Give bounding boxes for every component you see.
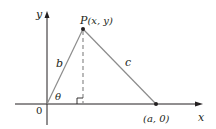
point-a [154,102,158,106]
point-a-label: (a, 0) [143,113,170,124]
x-axis-arrow-icon [195,102,203,107]
x-axis-label: x [198,111,205,124]
side-b-label: b [56,57,63,70]
origin-label: 0 [36,105,42,116]
x-axis [15,102,203,107]
y-axis [45,11,50,125]
y-axis-arrow-icon [45,11,50,18]
triangle-diagram: y x 0 P(x, y) (a, 0) b c θ [0,0,216,129]
point-p-label: P(x, y) [79,14,113,27]
side-c [83,29,156,104]
y-axis-label: y [35,8,43,21]
point-p-coords: (x, y) [87,15,113,26]
point-p [81,27,85,31]
side-b [47,29,83,104]
angle-theta-label: θ [55,91,61,102]
right-angle-marker-icon [77,98,83,104]
side-c-label: c [125,56,131,69]
